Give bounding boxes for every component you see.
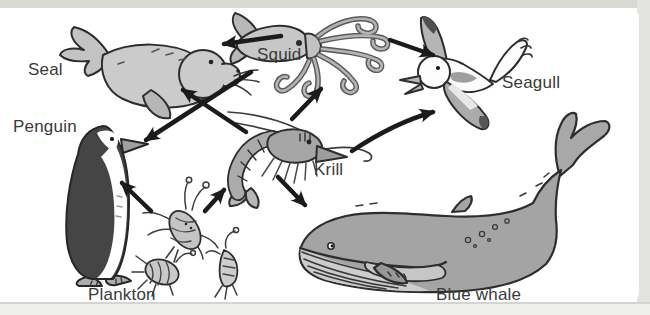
penguin-illustration xyxy=(66,126,148,286)
krill-tail-fan2 xyxy=(246,188,259,208)
whale-pupil xyxy=(331,245,334,248)
diagram-canvas xyxy=(0,0,650,315)
whale-dorsal-fin xyxy=(452,196,472,212)
label-blue-whale: Blue whale xyxy=(436,285,521,304)
squid-illustration xyxy=(230,13,387,97)
seal-eye xyxy=(209,60,214,65)
penguin-beak xyxy=(121,139,148,153)
plankton-copepod-large xyxy=(143,177,218,262)
seagull-beak-lower xyxy=(405,84,423,94)
arrow-krill-to-whale xyxy=(278,177,305,205)
arrow-plankton-to-krill xyxy=(205,190,224,211)
seal-nose xyxy=(236,69,240,73)
food-web-diagram: Seal Penguin Squid Krill Seagull Plankto… xyxy=(0,0,650,315)
arrow-krill-to-seagull xyxy=(352,112,433,151)
seal-illustration xyxy=(60,27,259,118)
krill-eye xyxy=(307,140,312,145)
label-squid: Squid xyxy=(257,45,301,64)
seagull-eye xyxy=(436,66,440,70)
label-seagull: Seagull xyxy=(502,73,560,92)
whale-flukes xyxy=(556,113,610,176)
label-plankton: Plankton xyxy=(88,285,156,304)
plankton-shrimp-small xyxy=(206,227,239,299)
krill-abdomen xyxy=(235,138,272,193)
seagull-beak-upper xyxy=(400,76,421,84)
penguin-eye xyxy=(110,137,114,141)
krill-illustration xyxy=(228,112,371,208)
blue-whale-illustration xyxy=(300,113,610,292)
label-krill: Krill xyxy=(314,160,343,179)
label-seal: Seal xyxy=(28,60,63,79)
krill-carapace xyxy=(267,129,322,162)
plankton-illustration xyxy=(132,177,239,299)
label-penguin: Penguin xyxy=(13,117,77,136)
